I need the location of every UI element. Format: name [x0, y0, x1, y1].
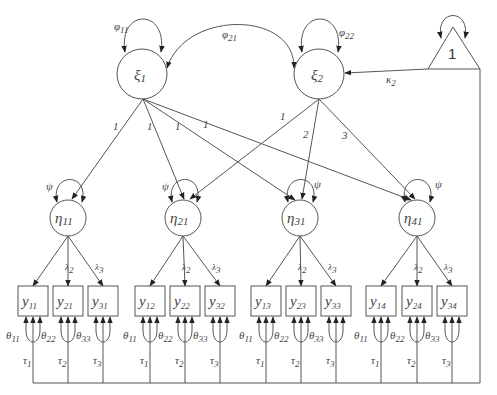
path-xi1-eta11	[72, 99, 143, 199]
indicator-layer: y11θ11τ1λ2y21θ22τ2λ3y31θ33τ3y12θ11τ1λ2y2…	[6, 236, 467, 383]
label-lambda: λ2	[413, 262, 423, 275]
label-theta: θ33	[76, 329, 91, 344]
path-loading	[300, 236, 336, 286]
eta-group-3: ψ η31	[282, 178, 321, 236]
covariance-arc-phi21	[167, 25, 294, 69]
label-lambda: λ2	[297, 262, 307, 275]
label-tau: τ2	[291, 354, 300, 369]
label-phi11: φ11	[114, 20, 128, 35]
label-lambda: λ3	[211, 262, 221, 275]
path-loading	[381, 236, 417, 286]
path-loading	[300, 236, 301, 286]
label-theta: θ22	[158, 329, 173, 344]
label-tau: τ3	[442, 354, 451, 369]
label-tau: τ1	[256, 354, 264, 369]
label-theta: θ11	[123, 329, 137, 344]
path-xi2-eta41	[319, 99, 415, 199]
path-loading	[68, 236, 103, 286]
label-theta: θ33	[425, 329, 440, 344]
label-lambda: λ3	[327, 262, 337, 275]
path-loading	[150, 236, 183, 286]
eta-group-4: ψ η41	[399, 178, 442, 236]
svg-text:ψ: ψ	[162, 180, 169, 192]
svg-text:ψ: ψ	[435, 178, 442, 190]
label-tau: τ1	[140, 354, 148, 369]
label-theta: θ22	[41, 329, 56, 344]
label-tau: τ2	[175, 354, 184, 369]
path-xi1-eta41	[143, 99, 411, 200]
label-loading-xi1-eta11: 1	[113, 120, 119, 132]
path-loading	[33, 236, 68, 286]
label-loading-xi2-eta41: 3	[341, 129, 348, 141]
label-phi21: φ21	[222, 28, 237, 43]
label-theta: θ22	[390, 329, 405, 344]
label-lambda: λ2	[181, 262, 191, 275]
label-kappa2: κ2	[386, 73, 396, 88]
label-loading-xi1-eta41: 1	[203, 118, 209, 130]
eta-group-2: ψ η21	[162, 180, 201, 237]
label-tau: τ2	[407, 354, 416, 369]
label-theta: θ11	[239, 329, 253, 344]
label-theta: θ33	[193, 329, 208, 344]
variance-loop-xi1	[124, 19, 161, 52]
path-loading	[183, 236, 185, 286]
label-phi22: φ22	[339, 26, 355, 41]
label-loading-xi1-eta31: 1	[175, 120, 181, 132]
label-loading-xi2-eta21: 1	[280, 110, 286, 122]
sem-path-diagram: φ21 φ11 φ22 1 κ2 ξ1 ξ2 1 1 1 1 1 2 3 ψ η…	[0, 0, 497, 395]
label-theta: θ22	[274, 329, 289, 344]
path-loading	[417, 236, 452, 286]
label-theta: θ33	[309, 329, 324, 344]
path-loading	[183, 236, 220, 286]
label-tau: τ2	[58, 354, 67, 369]
svg-text:ψ: ψ	[314, 178, 321, 190]
label-tau: τ3	[326, 354, 335, 369]
label-loading-xi2-eta31: 2	[303, 128, 309, 140]
label-theta: θ11	[354, 329, 368, 344]
label-tau: τ1	[371, 354, 379, 369]
label-theta: θ11	[6, 329, 20, 344]
label-lambda: λ3	[443, 262, 453, 275]
label-tau: τ3	[210, 354, 219, 369]
svg-text:ψ: ψ	[46, 180, 53, 192]
label-tau: τ3	[93, 354, 102, 369]
path-xi2-eta21	[190, 99, 319, 199]
label-tau: τ1	[23, 354, 31, 369]
constant-label: 1	[448, 45, 456, 62]
variance-loop-xi2	[301, 19, 338, 52]
path-loading	[266, 236, 300, 286]
label-lambda: λ2	[64, 262, 74, 275]
label-lambda: λ3	[94, 262, 104, 275]
label-loading-xi1-eta21: 1	[147, 120, 153, 132]
